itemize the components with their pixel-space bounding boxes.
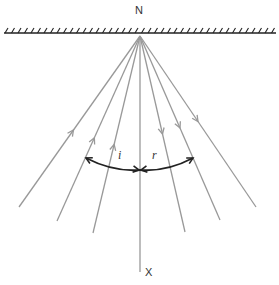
incident-ray-1 (19, 36, 140, 207)
incident-ray-2 (57, 36, 140, 221)
angle-of-incidence-label: i (118, 148, 121, 163)
diagram-canvas (0, 0, 279, 285)
incident-rays (19, 36, 140, 233)
incident-ray-3 (93, 36, 140, 233)
reflected-rays (140, 36, 256, 232)
angle-of-reflection-label: r (152, 148, 157, 163)
normal-bottom-label: X (145, 266, 152, 278)
normal-top-label: N (135, 4, 143, 16)
reflection-diagram: N X i r (0, 0, 279, 285)
mirror (4, 28, 276, 33)
